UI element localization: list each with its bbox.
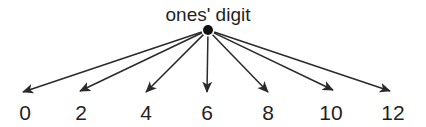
ones-digit-diagram: ones' digit 024681012 xyxy=(0,0,426,127)
arrow-to-10 xyxy=(214,33,333,90)
arrow-to-8 xyxy=(213,35,268,92)
leaf-label-8: 8 xyxy=(262,101,274,124)
leaf-label-12: 12 xyxy=(381,101,404,124)
leaf-label-4: 4 xyxy=(140,101,152,124)
leaf-label-group: 024681012 xyxy=(19,101,405,124)
leaf-label-0: 0 xyxy=(19,101,31,124)
edge-group xyxy=(23,32,390,92)
diagram-title: ones' digit xyxy=(166,4,252,25)
leaf-label-10: 10 xyxy=(319,101,342,124)
leaf-label-2: 2 xyxy=(75,101,87,124)
arrow-to-12 xyxy=(214,32,390,91)
diagram-canvas: ones' digit 024681012 xyxy=(0,0,426,127)
leaf-label-6: 6 xyxy=(201,101,213,124)
arrow-to-4 xyxy=(146,35,203,92)
arrow-to-2 xyxy=(80,33,202,91)
arrow-to-6 xyxy=(207,36,208,92)
ones-digit-node-dot xyxy=(203,25,213,35)
